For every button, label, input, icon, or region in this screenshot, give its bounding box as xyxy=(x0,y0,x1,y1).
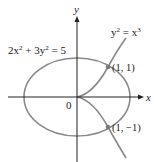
x-axis-label: x xyxy=(145,91,151,103)
x-axis-arrow-icon xyxy=(138,95,144,100)
y-axis-label: y xyxy=(73,3,79,15)
point-label-1-neg1: (1, −1) xyxy=(112,122,141,134)
diagram-figure: x y 0 (1, 1) (1, −1) 2x2 + 3y2 = 5 y2 = … xyxy=(0,0,154,162)
origin-label: 0 xyxy=(66,99,72,111)
y-axis-arrow-icon xyxy=(75,16,80,22)
cusp-equation-label: y2 = x3 xyxy=(111,26,141,38)
point-label-1-1: (1, 1) xyxy=(112,62,135,74)
ellipse-equation-label: 2x2 + 3y2 = 5 xyxy=(8,44,66,56)
point-1-1 xyxy=(106,65,111,70)
point-1-neg1 xyxy=(106,125,111,130)
